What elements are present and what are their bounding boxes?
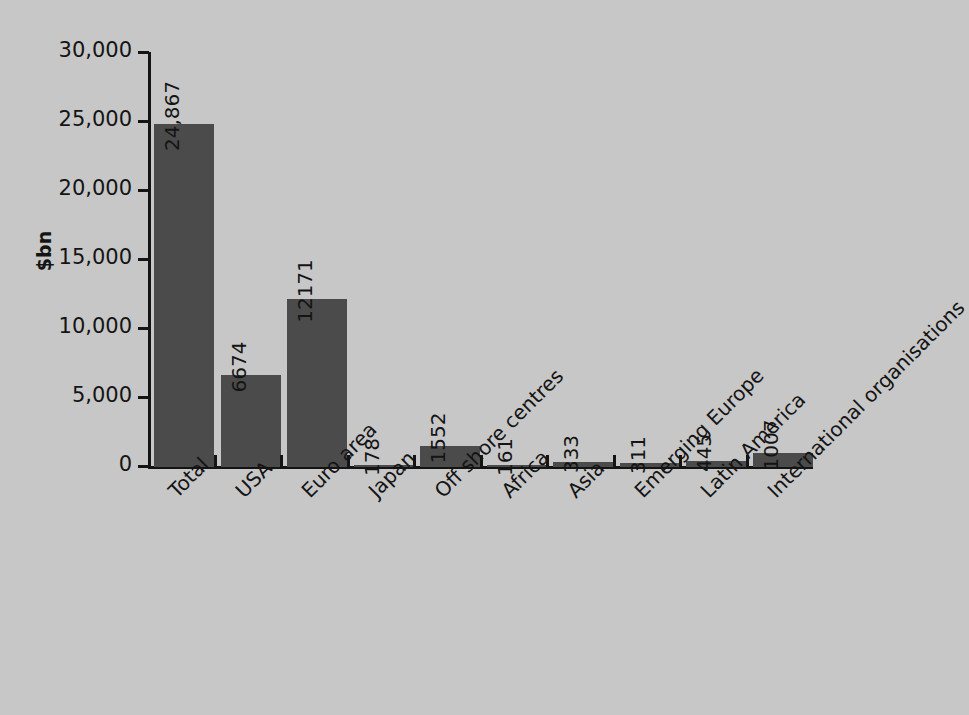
- bar-value-label: 6674: [227, 341, 251, 392]
- x-axis-tick: [613, 455, 616, 467]
- y-axis-tick-label: 25,000: [12, 107, 132, 131]
- bar-group[interactable]: 6674: [221, 52, 281, 467]
- y-axis-tick-label: 20,000: [12, 176, 132, 200]
- bar[interactable]: [287, 299, 347, 467]
- bar-group[interactable]: 311: [620, 52, 680, 467]
- y-axis-tick-label: 0: [12, 452, 132, 476]
- y-axis-tick-label: 5,000: [12, 383, 132, 407]
- y-axis-tick-label: 15,000: [12, 245, 132, 269]
- bar-value-label: 24,867: [160, 81, 184, 151]
- bar-value-label: 12171: [293, 259, 317, 323]
- y-axis-tick-label: 30,000: [12, 38, 132, 62]
- bar[interactable]: [154, 124, 214, 467]
- x-axis-tick: [280, 455, 283, 467]
- bar-group[interactable]: 333: [553, 52, 613, 467]
- bar-group[interactable]: 12171: [287, 52, 347, 467]
- y-axis-tick-label: 10,000: [12, 314, 132, 338]
- bar-value-label: 1552: [426, 412, 450, 463]
- x-axis-tick: [214, 455, 217, 467]
- bar-group[interactable]: 178: [354, 52, 414, 467]
- bar-group[interactable]: 1552: [420, 52, 480, 467]
- bar-group[interactable]: 24,867: [154, 52, 214, 467]
